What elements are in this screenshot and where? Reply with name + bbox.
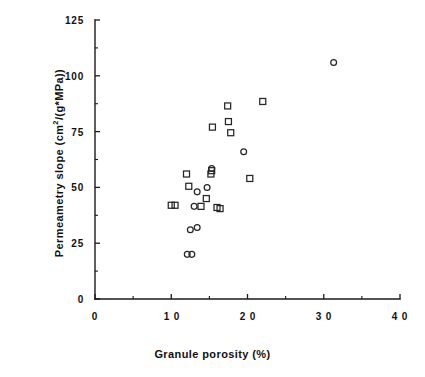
data-point-circle — [194, 189, 200, 195]
data-point-circle — [331, 60, 337, 66]
data-point-square — [198, 203, 204, 209]
data-point-square — [203, 196, 209, 202]
data-point-square — [184, 171, 190, 177]
data-point-square — [260, 98, 266, 104]
scatter-plot-figure: Permeametry slope (cm2/(g*MPa)) Granule … — [0, 0, 425, 377]
data-point-square — [209, 124, 215, 130]
data-point-circle — [241, 149, 247, 155]
data-point-circle — [191, 203, 197, 209]
x-axis-ticks — [95, 294, 400, 299]
data-point-circle — [204, 185, 210, 191]
data-point-square — [172, 202, 178, 208]
data-point-circle — [194, 225, 200, 231]
data-point-square — [225, 103, 231, 109]
data-point-square — [186, 183, 192, 189]
data-point-square — [228, 130, 234, 136]
data-point-square — [225, 119, 231, 125]
plot-canvas — [0, 0, 425, 377]
data-point-circle — [187, 227, 193, 233]
y-axis-ticks — [95, 20, 100, 299]
data-point-square — [247, 175, 253, 181]
data-point-square — [168, 202, 174, 208]
data-markers — [168, 60, 336, 258]
